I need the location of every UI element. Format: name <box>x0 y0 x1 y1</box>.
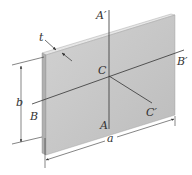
plate-left-side <box>42 53 46 155</box>
label-b-axis: B <box>29 110 38 123</box>
plate-diagram: t A′ B′ C C′ b B A a <box>0 0 192 175</box>
t-arrow-top <box>45 40 56 50</box>
b-ext-bottom <box>12 137 42 144</box>
label-a-axis: A <box>99 119 108 132</box>
label-a-dim: a <box>107 132 114 145</box>
label-c: C <box>98 64 107 77</box>
label-a-prime: A′ <box>95 9 107 22</box>
label-c-prime: C′ <box>146 106 157 119</box>
label-b-prime: B′ <box>176 55 188 68</box>
label-t: t <box>39 31 44 44</box>
label-b-dim: b <box>16 96 23 109</box>
b-ext-top <box>12 57 44 65</box>
